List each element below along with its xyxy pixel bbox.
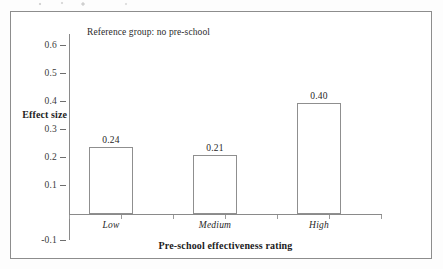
- x-axis-category-label-medium: Medium: [193, 220, 237, 230]
- reference-group-annotation: Reference group: no pre-school: [87, 27, 210, 37]
- y-axis-tick-0.6: 0.6: [11, 39, 69, 51]
- x-axis-category-label-high: High: [297, 220, 341, 230]
- y-axis-tick-label: 0.2: [45, 152, 57, 162]
- bar-value-label-medium: 0.21: [193, 143, 237, 153]
- y-axis-tick-0.3: 0.3: [11, 123, 69, 135]
- bar-medium[interactable]: [193, 155, 237, 214]
- y-axis-tick-dash-icon: [60, 73, 66, 74]
- scan-artifact-noise: [0, 0, 443, 9]
- bar-value-label-low: 0.24: [89, 135, 133, 145]
- y-axis-tick--0.1: -0.1: [11, 234, 69, 246]
- y-axis-line: [69, 34, 70, 240]
- x-axis-tick-mark: [277, 215, 278, 219]
- y-axis-tick-label: 0.4: [45, 96, 57, 106]
- y-axis-tick-dash-icon: [60, 101, 66, 102]
- y-axis-tick-0.1: 0.1: [11, 179, 69, 191]
- y-axis-tick-dash-icon: [60, 45, 66, 46]
- y-axis-tick-label: 0.3: [45, 124, 57, 134]
- y-axis-tick-0.5: 0.5: [11, 67, 69, 79]
- y-axis-title: Effect size: [11, 109, 67, 120]
- x-axis-tick-mark: [173, 215, 174, 219]
- x-axis-tick-mark: [381, 215, 382, 219]
- y-axis-tick-0.2: 0.2: [11, 151, 69, 163]
- y-axis-tick-dash-icon: [60, 157, 66, 158]
- plot-area: 0.6 0.5 0.4 0.3 0.2 0.1: [11, 12, 433, 260]
- y-axis-tick-0.4: 0.4: [11, 95, 69, 107]
- x-axis-tick-mark: [329, 215, 330, 219]
- y-axis-tick-dash-icon: [60, 185, 66, 186]
- bar-value-label-high: 0.40: [297, 91, 341, 101]
- y-axis-tick-label: -0.1: [41, 235, 57, 245]
- y-axis-tick-dash-icon: [60, 129, 66, 130]
- x-axis-title: Pre-school effectiveness rating: [69, 240, 382, 251]
- y-axis-tick-label: 0.5: [45, 68, 57, 78]
- scan-canvas: 0.6 0.5 0.4 0.3 0.2 0.1: [0, 0, 443, 269]
- x-axis-tick-mark: [121, 215, 122, 219]
- y-axis-tick-label: 0.1: [45, 180, 57, 190]
- x-axis-category-label-low: Low: [89, 220, 133, 230]
- bar-low[interactable]: [89, 147, 133, 214]
- x-axis-tick-mark: [69, 215, 70, 219]
- y-axis-tick-dash-icon: [60, 240, 66, 241]
- x-axis-tick-mark: [225, 215, 226, 219]
- figure-frame: 0.6 0.5 0.4 0.3 0.2 0.1: [10, 11, 432, 259]
- bar-high[interactable]: [297, 103, 341, 214]
- y-axis-tick-label: 0.6: [45, 40, 57, 50]
